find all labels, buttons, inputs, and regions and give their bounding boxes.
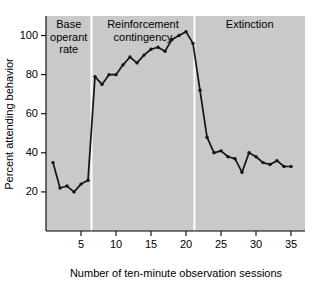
data-point — [289, 165, 292, 168]
data-point — [212, 151, 215, 154]
y-tick-label-20: 20 — [26, 185, 38, 197]
data-point — [275, 159, 278, 162]
y-tick-label-60: 60 — [26, 107, 38, 119]
data-point — [240, 171, 243, 174]
plot-background — [46, 16, 305, 231]
data-point — [198, 89, 201, 92]
data-point — [79, 182, 82, 185]
data-point — [72, 190, 75, 193]
x-tick-label-10: 10 — [110, 238, 122, 250]
data-point — [107, 73, 110, 76]
y-tick-label-80: 80 — [26, 68, 38, 80]
data-point — [100, 83, 103, 86]
y-axis-title: Percent attending behavior — [3, 58, 15, 190]
y-tick-label-40: 40 — [26, 146, 38, 158]
chart-figure: 20406080100 5101520253035 Baseoperantrat… — [0, 0, 312, 286]
data-point — [121, 63, 124, 66]
data-point — [219, 149, 222, 152]
x-axis-ticks: 5101520253035 — [78, 231, 297, 250]
line-chart: 20406080100 5101520253035 Baseoperantrat… — [0, 0, 312, 286]
data-point — [226, 155, 229, 158]
x-tick-label-35: 35 — [285, 238, 297, 250]
data-point — [163, 49, 166, 52]
data-point — [156, 46, 159, 49]
data-point — [191, 42, 194, 45]
data-point — [233, 157, 236, 160]
data-point — [65, 184, 68, 187]
data-point — [149, 48, 152, 51]
x-tick-label-5: 5 — [78, 238, 84, 250]
data-point — [128, 55, 131, 58]
data-point — [205, 135, 208, 138]
x-tick-label-25: 25 — [215, 238, 227, 250]
data-point — [142, 53, 145, 56]
data-point — [247, 151, 250, 154]
data-point — [114, 73, 117, 76]
x-tick-label-30: 30 — [250, 238, 262, 250]
data-point — [254, 155, 257, 158]
phase-label-1: Reinforcementcontingency — [107, 18, 179, 43]
data-point — [51, 161, 54, 164]
data-point — [282, 165, 285, 168]
x-axis-title: Number of ten-minute observation session… — [70, 267, 283, 279]
phase-label-2: Extinction — [226, 18, 274, 30]
y-axis-ticks: 20406080100 — [20, 29, 46, 197]
y-tick-label-100: 100 — [20, 29, 38, 41]
data-point — [93, 75, 96, 78]
x-tick-label-15: 15 — [145, 238, 157, 250]
data-point — [58, 186, 61, 189]
data-point — [268, 163, 271, 166]
data-point — [135, 61, 138, 64]
data-point — [86, 178, 89, 181]
data-point — [184, 30, 187, 33]
x-tick-label-20: 20 — [180, 238, 192, 250]
data-point — [177, 34, 180, 37]
data-point — [261, 161, 264, 164]
